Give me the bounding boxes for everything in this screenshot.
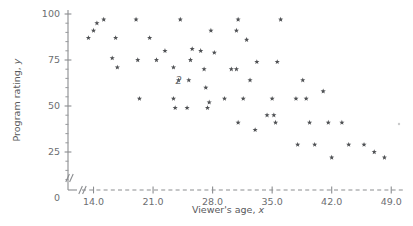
data-point bbox=[135, 57, 140, 62]
data-point bbox=[264, 113, 269, 118]
data-point bbox=[115, 65, 120, 70]
data-point bbox=[270, 96, 275, 101]
data-point bbox=[212, 50, 217, 55]
data-point bbox=[203, 85, 208, 90]
data-point bbox=[198, 48, 203, 53]
scatter-plot-canvas: 0255075100 14.021.028.035.042.049.0 2 Pr… bbox=[0, 0, 413, 226]
data-point bbox=[295, 142, 300, 147]
data-point bbox=[372, 149, 377, 154]
data-point bbox=[186, 78, 191, 83]
data-point bbox=[173, 105, 178, 110]
data-point bbox=[133, 17, 138, 22]
data-point bbox=[178, 17, 183, 22]
data-point bbox=[271, 113, 276, 118]
data-point bbox=[86, 35, 91, 40]
y-axis-tick-label: 100 bbox=[42, 8, 60, 19]
data-point bbox=[234, 67, 239, 72]
data-point bbox=[222, 96, 227, 101]
overlap-count-layer: 2 bbox=[175, 75, 181, 86]
data-point bbox=[147, 35, 152, 40]
y-axis-title: Program rating, y bbox=[11, 58, 22, 141]
data-point bbox=[300, 78, 305, 83]
data-point bbox=[101, 17, 106, 22]
data-point bbox=[254, 59, 259, 64]
data-point bbox=[293, 96, 298, 101]
data-point bbox=[137, 96, 142, 101]
data-point bbox=[326, 120, 331, 125]
x-axis-title: Viewer's age, x bbox=[192, 204, 265, 215]
scatter-plot-figure: 0255075100 14.021.028.035.042.049.0 2 Pr… bbox=[0, 0, 413, 226]
data-point bbox=[229, 67, 234, 72]
data-point bbox=[188, 57, 193, 62]
overlap-count-label: 2 bbox=[175, 75, 181, 86]
data-point bbox=[304, 96, 309, 101]
data-point bbox=[171, 96, 176, 101]
data-point bbox=[185, 105, 190, 110]
x-axis-tick-label: 14.0 bbox=[83, 196, 104, 207]
data-point bbox=[346, 142, 351, 147]
data-point bbox=[339, 120, 344, 125]
data-point bbox=[275, 59, 280, 64]
data-point bbox=[234, 28, 239, 33]
data-point bbox=[241, 96, 246, 101]
data-point bbox=[113, 35, 118, 40]
axis-break-marks bbox=[66, 174, 86, 194]
x-axis-tick-label: 42.0 bbox=[321, 196, 342, 207]
x-axis-tick-label: 49.0 bbox=[381, 196, 402, 207]
data-point bbox=[236, 17, 241, 22]
data-point bbox=[207, 100, 212, 105]
data-point bbox=[321, 89, 326, 94]
y-axis-tick-label: 25 bbox=[48, 146, 60, 157]
axis-break-mark bbox=[66, 174, 73, 182]
page-speck bbox=[398, 123, 400, 125]
data-point bbox=[253, 127, 258, 132]
data-point-layer bbox=[86, 17, 387, 160]
data-point bbox=[329, 155, 334, 160]
data-point bbox=[307, 120, 312, 125]
data-point bbox=[278, 17, 283, 22]
x-axis-tick-label: 35.0 bbox=[262, 196, 283, 207]
data-point bbox=[208, 28, 213, 33]
data-point bbox=[236, 120, 241, 125]
data-point bbox=[247, 78, 252, 83]
data-point bbox=[91, 28, 96, 33]
data-point bbox=[202, 67, 207, 72]
data-point bbox=[205, 105, 210, 110]
y-axis-tick-label: 75 bbox=[48, 54, 60, 65]
data-point bbox=[171, 65, 176, 70]
data-point bbox=[190, 46, 195, 51]
data-point bbox=[273, 120, 278, 125]
data-point bbox=[162, 48, 167, 53]
data-point bbox=[312, 142, 317, 147]
data-point bbox=[154, 57, 159, 62]
data-point bbox=[244, 37, 249, 42]
y-axis-tick-label: 0 bbox=[54, 192, 60, 203]
y-axis: 0255075100 bbox=[42, 8, 77, 203]
data-point bbox=[94, 21, 99, 26]
data-point bbox=[361, 142, 366, 147]
y-axis-tick-label: 50 bbox=[48, 100, 60, 111]
x-axis-tick-label: 21.0 bbox=[142, 196, 163, 207]
data-point bbox=[382, 155, 387, 160]
data-point bbox=[110, 55, 115, 60]
